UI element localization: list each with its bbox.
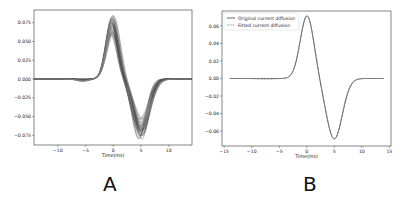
trace-line (34, 33, 192, 129)
trace-line (34, 27, 192, 130)
trace-line (34, 25, 192, 123)
x-tick-label: 10 (359, 149, 365, 154)
trace-line (34, 31, 192, 119)
trace-line (34, 34, 192, 132)
y-tick-label: −0.050 (14, 114, 31, 119)
trace-line (34, 34, 192, 127)
x-tick-label: −10 (247, 149, 257, 154)
x-tick-label: 5 (333, 149, 336, 154)
panel-b: −15−10−50510150.060.040.020.00−0.02−0.04… (202, 0, 404, 202)
legend-entry-label: Fitted current diffusion (238, 23, 290, 28)
trace-line (34, 19, 192, 123)
trace-line (34, 32, 192, 136)
x-tick-label: −15 (219, 149, 229, 154)
x-tick-label: −5 (82, 148, 89, 153)
original-current-line (230, 16, 384, 139)
trace-line (34, 28, 192, 120)
trace-line (34, 26, 192, 125)
trace-line (34, 22, 192, 139)
trace-line (34, 36, 192, 120)
x-tick-label: 0 (112, 148, 115, 153)
x-tick-label: 0 (305, 149, 308, 154)
trace-line (34, 25, 192, 128)
x-tick-label: 5 (140, 148, 143, 153)
panel-label-b: B (303, 172, 317, 196)
chart-b-lines (230, 16, 384, 139)
fitted-current-line (230, 16, 384, 139)
y-tick-label: 0.075 (18, 20, 31, 25)
y-tick-label: 0.050 (18, 39, 31, 44)
legend-entry-label: Original current diffusion (238, 16, 295, 21)
panel-label-a: A (103, 172, 117, 196)
trace-line (34, 29, 192, 118)
chart-a-plot: −10−505100.0750.0500.0250.000−0.025−0.05… (0, 0, 202, 202)
x-axis-label: Time(ms) (101, 153, 125, 158)
x-tick-label: 10 (166, 148, 172, 153)
trace-line (34, 24, 192, 131)
trace-line (34, 31, 192, 132)
y-tick-label: 0.000 (18, 77, 31, 82)
x-tick-label: −10 (53, 148, 63, 153)
y-tick-label: −0.06 (205, 129, 219, 134)
y-tick-label: 0.025 (18, 58, 31, 63)
y-tick-label: 0.06 (209, 24, 219, 29)
y-tick-label: 0.02 (209, 59, 219, 64)
trace-line (34, 34, 192, 137)
trace-line (34, 20, 192, 118)
trace-line (34, 29, 192, 122)
y-tick-label: −0.025 (14, 95, 31, 100)
x-tick-label: 15 (386, 149, 392, 154)
trace-line (34, 36, 192, 139)
x-tick-label: −5 (276, 149, 283, 154)
x-axis-label: Time(ms) (294, 154, 318, 159)
legend: Original current diffusionFitted current… (224, 13, 299, 30)
trace-line (34, 23, 192, 132)
panel-a: −10−505100.0750.0500.0250.000−0.025−0.05… (0, 0, 202, 202)
trace-line (34, 24, 192, 125)
trace-line (34, 29, 192, 135)
y-tick-label: 0.04 (209, 41, 219, 46)
y-tick-label: −0.04 (205, 111, 219, 116)
trace-line (34, 19, 192, 133)
trace-line (34, 30, 192, 122)
y-tick-label: −0.02 (205, 94, 219, 99)
chart-a-lines (34, 15, 192, 139)
trace-line (34, 18, 192, 130)
y-tick-label: −0.075 (14, 133, 31, 138)
y-tick-label: 0.00 (209, 76, 219, 81)
